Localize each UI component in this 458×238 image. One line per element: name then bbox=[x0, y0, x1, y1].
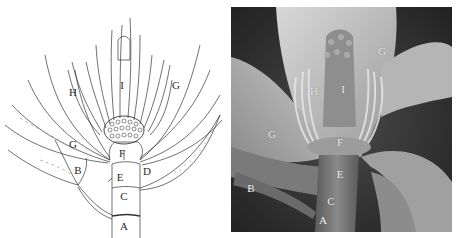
photo-label-g-left: G bbox=[268, 129, 276, 140]
drawing-label-e: E bbox=[117, 172, 124, 183]
flower-photo-image bbox=[231, 7, 452, 232]
drawing-label-g-left: G bbox=[69, 139, 77, 150]
photo-label-g-upper: G bbox=[378, 46, 386, 57]
drawing-label-f: F bbox=[119, 148, 125, 159]
drawing-label-c: C bbox=[120, 191, 127, 202]
botanical-line-drawing: I H G G F B E D C A bbox=[0, 0, 229, 238]
photo-label-e: E bbox=[337, 169, 344, 180]
photo-label-f: F bbox=[337, 137, 343, 148]
photo-label-c: C bbox=[327, 196, 334, 207]
drawing-label-b: B bbox=[74, 165, 81, 176]
drawing-label-a: A bbox=[120, 221, 128, 232]
photo-label-a: A bbox=[319, 215, 327, 226]
drawing-label-d: D bbox=[143, 166, 151, 177]
photo-label-h: H bbox=[310, 86, 318, 97]
flower-drawing-illustration bbox=[0, 0, 229, 238]
drawing-label-h: H bbox=[69, 87, 77, 98]
drawing-label-i: I bbox=[120, 80, 124, 91]
photo-label-i: I bbox=[341, 84, 345, 95]
photo-label-b: B bbox=[247, 183, 254, 194]
magnolia-photograph: G H I G F E B C A bbox=[231, 7, 452, 232]
drawing-label-g-right: G bbox=[172, 80, 180, 91]
